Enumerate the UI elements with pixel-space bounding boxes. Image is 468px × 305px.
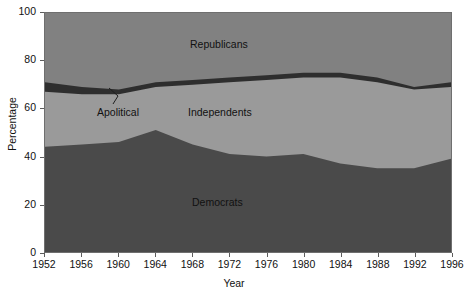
x-tick-label: 1960 bbox=[98, 258, 138, 270]
x-tick-mark bbox=[415, 253, 416, 257]
x-tick-label: 1980 bbox=[284, 258, 324, 270]
stacked-area-chart: 020406080100 195219561960196419681972197… bbox=[0, 0, 468, 305]
series-label-apolitical: Apolitical bbox=[97, 106, 139, 118]
y-tick-label: 80 bbox=[0, 54, 36, 65]
x-tick-label: 1968 bbox=[172, 258, 212, 270]
series-label-republicans: Republicans bbox=[190, 38, 248, 50]
x-tick-mark bbox=[81, 253, 82, 257]
y-tick-label: 100 bbox=[0, 6, 36, 17]
plot-area bbox=[44, 12, 452, 253]
x-tick-mark bbox=[44, 253, 45, 257]
x-tick-mark bbox=[304, 253, 305, 257]
y-tick-label: 20 bbox=[0, 199, 36, 210]
series-label-independents: Independents bbox=[188, 106, 252, 118]
x-tick-mark bbox=[267, 253, 268, 257]
x-tick-label: 1972 bbox=[209, 258, 249, 270]
y-axis-title: Percentage bbox=[6, 84, 18, 164]
x-tick-label: 1976 bbox=[247, 258, 287, 270]
x-tick-label: 1984 bbox=[321, 258, 361, 270]
area-series-svg bbox=[45, 13, 451, 252]
x-tick-mark bbox=[155, 253, 156, 257]
x-tick-mark bbox=[118, 253, 119, 257]
x-tick-label: 1996 bbox=[432, 258, 468, 270]
x-axis-title: Year bbox=[0, 277, 468, 289]
x-tick-mark bbox=[229, 253, 230, 257]
y-tick-label: 0 bbox=[0, 247, 36, 258]
x-tick-label: 1964 bbox=[135, 258, 175, 270]
x-tick-mark bbox=[341, 253, 342, 257]
x-tick-mark bbox=[452, 253, 453, 257]
x-tick-mark bbox=[378, 253, 379, 257]
x-tick-label: 1988 bbox=[358, 258, 398, 270]
x-tick-label: 1956 bbox=[61, 258, 101, 270]
x-tick-label: 1952 bbox=[24, 258, 64, 270]
series-label-democrats: Democrats bbox=[192, 196, 243, 208]
x-tick-label: 1992 bbox=[395, 258, 435, 270]
x-tick-mark bbox=[192, 253, 193, 257]
